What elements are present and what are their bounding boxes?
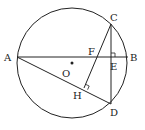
- label-o: O: [62, 68, 70, 79]
- label-e: E: [110, 61, 117, 72]
- geometry-diagram: A B C D E F H O: [0, 0, 145, 130]
- label-d: D: [110, 107, 118, 118]
- right-angle-mark-e: [111, 53, 115, 57]
- label-a: A: [3, 52, 12, 63]
- label-b: B: [130, 52, 137, 63]
- label-c: C: [110, 12, 118, 23]
- label-f: F: [88, 46, 95, 57]
- label-h: H: [73, 90, 82, 101]
- segment-ad: [17, 57, 111, 104]
- right-angle-mark-h: [86, 84, 90, 89]
- center-dot-o: [71, 62, 74, 65]
